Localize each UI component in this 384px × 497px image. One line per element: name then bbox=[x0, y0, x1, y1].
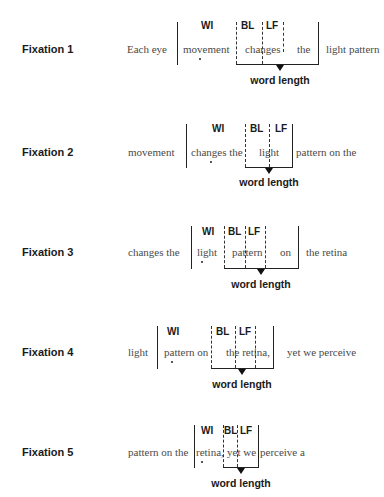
word-length-label: word length bbox=[239, 176, 299, 188]
window-right-edge bbox=[273, 326, 274, 369]
word-length-label: word length bbox=[250, 74, 310, 86]
text-extra: on bbox=[280, 246, 291, 258]
fixation-row-1: Fixation 1 Each eye WI movement BL LF ch… bbox=[0, 0, 384, 100]
window-left-edge bbox=[186, 124, 187, 168]
text-before: movement bbox=[128, 146, 174, 158]
bl-boundary bbox=[245, 124, 246, 167]
wi-header: WI bbox=[167, 326, 179, 337]
text-after: yet we perceive bbox=[287, 346, 356, 358]
text-before: Each eye bbox=[127, 43, 167, 55]
fixation-point bbox=[201, 261, 203, 263]
arrow-down-icon bbox=[276, 65, 284, 71]
text-wi: retina, bbox=[196, 446, 224, 458]
bl-header: BL bbox=[216, 326, 229, 337]
word-length-label: word length bbox=[211, 477, 271, 489]
fixation-point bbox=[199, 58, 201, 60]
bl-boundary bbox=[236, 22, 237, 64]
text-after: the retina bbox=[306, 246, 347, 258]
window-left-edge bbox=[157, 326, 158, 369]
lf-header: LF bbox=[275, 123, 287, 134]
wi-header: WI bbox=[212, 123, 224, 134]
text-window: pattern bbox=[232, 246, 263, 258]
text-window: yet we bbox=[227, 446, 256, 458]
arrow-down-icon bbox=[257, 269, 265, 275]
fixation-label: Fixation 3 bbox=[22, 246, 73, 258]
lf-header: LF bbox=[239, 326, 251, 337]
lf-header: LF bbox=[240, 425, 252, 436]
window-right-edge bbox=[318, 22, 319, 65]
text-window: changes bbox=[245, 43, 280, 55]
wi-header: WI bbox=[202, 226, 214, 237]
fixation-label: Fixation 4 bbox=[22, 346, 73, 358]
wi-header: WI bbox=[201, 20, 213, 31]
arrow-down-icon bbox=[265, 168, 273, 174]
bl-boundary bbox=[211, 326, 212, 368]
arrow-down-icon bbox=[237, 468, 245, 474]
text-extra: the bbox=[297, 43, 310, 55]
bl-header: BL bbox=[250, 123, 263, 134]
text-wi: pattern on bbox=[164, 346, 208, 358]
fixation-label: Fixation 5 bbox=[22, 446, 73, 458]
bl-header: BL bbox=[241, 20, 254, 31]
fixation-row-3: Fixation 3 changes the WI light BL LF pa… bbox=[0, 200, 384, 300]
fixation-row-2: Fixation 2 movement WI changes the BL LF… bbox=[0, 100, 384, 200]
word-length-label: word length bbox=[231, 278, 291, 290]
window-right-edge bbox=[298, 226, 299, 269]
fixation-row-4: Fixation 4 light WI pattern on BL LF the… bbox=[0, 300, 384, 400]
text-wi: movement bbox=[183, 43, 229, 55]
text-wi: light bbox=[197, 246, 217, 258]
fixation-label: Fixation 1 bbox=[22, 43, 73, 55]
bl-header: BL bbox=[224, 425, 237, 436]
lf-right-boundary bbox=[283, 22, 284, 52]
lf-right-boundary bbox=[265, 226, 266, 268]
word-length-label: word length bbox=[212, 378, 272, 390]
fixation-label: Fixation 2 bbox=[22, 146, 73, 158]
text-before: light bbox=[128, 346, 148, 358]
fixation-point bbox=[210, 161, 212, 163]
text-after: perceive a bbox=[260, 446, 305, 458]
fixation-point bbox=[171, 361, 173, 363]
text-before: changes the bbox=[128, 246, 180, 258]
fixation-point bbox=[201, 461, 203, 463]
text-after: light pattern bbox=[326, 43, 379, 55]
fixation-row-5: Fixation 5 pattern on the WI retina, BL … bbox=[0, 400, 384, 497]
bl-boundary bbox=[224, 226, 225, 268]
text-wi: changes the bbox=[191, 146, 243, 158]
window-right-edge bbox=[292, 124, 293, 168]
text-after: pattern on the bbox=[296, 146, 356, 158]
lf-header: LF bbox=[266, 20, 278, 31]
arrow-down-icon bbox=[238, 369, 246, 375]
window-left-edge bbox=[191, 226, 192, 269]
text-window: the retina, bbox=[226, 346, 270, 358]
lf-header: LF bbox=[248, 226, 260, 237]
bl-header: BL bbox=[228, 226, 241, 237]
wi-header: WI bbox=[201, 425, 213, 436]
text-window: light bbox=[259, 146, 279, 158]
text-before: pattern on the bbox=[128, 446, 188, 458]
window-left-edge bbox=[177, 22, 178, 65]
